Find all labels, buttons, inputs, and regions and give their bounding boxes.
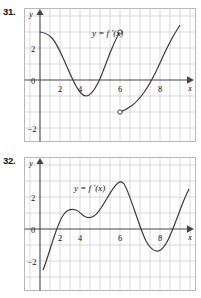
tick-y-neg2: −2 <box>27 257 36 267</box>
y-axis-label: y <box>28 10 33 19</box>
tick-x-8: 8 <box>158 233 162 243</box>
tick-x-6: 6 <box>118 233 122 243</box>
problem-number-31: 31. <box>3 6 15 17</box>
gridlines <box>25 158 196 291</box>
tick-y-0: 0 <box>31 225 35 235</box>
tick-x-6: 6 <box>118 84 122 94</box>
tick-x-2: 2 <box>58 84 62 94</box>
graph-svg-32: y x 0 2 −2 2 4 6 8 y = f ′(x) <box>24 157 196 291</box>
problem-32: 32. <box>0 149 201 298</box>
problem-number-32: 32. <box>3 155 15 166</box>
tick-y-2: 2 <box>31 44 35 54</box>
plot-32: y x 0 2 −2 2 4 6 8 y = f ′(x) <box>24 157 196 291</box>
x-axis-label: x <box>187 233 192 242</box>
graph-svg-31: y x 0 2 −2 2 4 6 8 y = f ′(x) <box>24 8 196 142</box>
curve-label-32: y = f ′(x) <box>73 183 105 193</box>
tick-y-0: 0 <box>31 76 35 86</box>
tick-x-8: 8 <box>158 84 162 94</box>
problem-31: 31. <box>0 0 201 149</box>
x-axis-label: x <box>187 84 192 93</box>
open-circle-lower <box>118 110 122 114</box>
plot-31: y x 0 2 −2 2 4 6 8 y = f ′(x) <box>24 8 196 142</box>
tick-y-2: 2 <box>31 193 35 203</box>
curve-label-31: y = f ′(x) <box>91 28 123 38</box>
tick-x-2: 2 <box>58 233 62 243</box>
y-axis-label: y <box>28 159 33 168</box>
tick-y-neg2: −2 <box>27 124 36 134</box>
